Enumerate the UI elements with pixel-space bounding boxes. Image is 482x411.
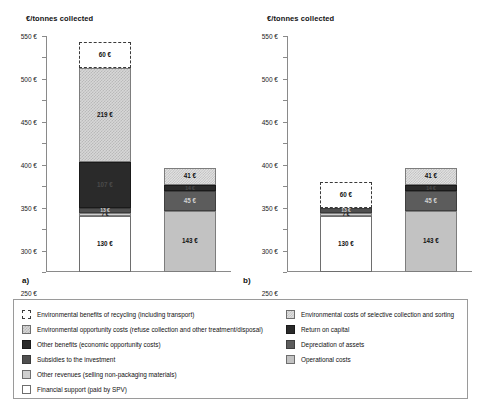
y-tick: 450 € (42, 79, 46, 80)
bar-costs-bar: 143 €45 €14 €41 € (164, 168, 216, 272)
bar-segment-env_costs_selective: 41 € (405, 168, 457, 186)
legend-item: Depreciation of assets (286, 337, 466, 351)
segment-value-label: 41 € (425, 173, 437, 179)
y-tick: 250 € (283, 165, 287, 166)
legend-label: Subsidies to the investment (37, 356, 115, 363)
y-tick: 100 € (283, 229, 287, 230)
legend-swatch-midgray (286, 340, 295, 349)
bar-benefits-bar: 130 €7 €13 €107 €219 €60 € (79, 63, 131, 272)
y-tick: 400 € (283, 100, 287, 101)
panel-label-a: a) (22, 276, 29, 285)
y-tick: 200 € (283, 186, 287, 187)
y-tick-label: 500 € (21, 75, 37, 82)
segment-value-label: 41 € (184, 173, 196, 179)
bar-segment-subsidies: 13 € (320, 208, 372, 214)
bar-costs-bar: 143 €45 €14 €41 € (405, 168, 457, 272)
legend-item: Return on capital (286, 322, 466, 336)
segment-value-label: 13 € (341, 208, 351, 213)
y-tick: 350 € (42, 122, 46, 123)
y-tick-label: 500 € (262, 75, 278, 82)
legend-label: Environmental costs of selective collect… (301, 311, 454, 318)
segment-value-label: 60 € (99, 52, 111, 58)
y-tick: 150 € (283, 208, 287, 209)
y-tick: 50 € (42, 251, 46, 252)
legend-item: Subsidies to the investment (22, 352, 282, 366)
y-tick: 0 € (42, 272, 46, 273)
y-tick-label: 400 € (21, 161, 37, 168)
y-tick: 100 € (42, 229, 46, 230)
bar-segment-env_benefits_recycling: 60 € (320, 182, 372, 208)
bar-benefits-bar: 130 €7 €13 €60 € (320, 182, 372, 272)
legend-label: Environmental benefits of recycling (inc… (37, 311, 194, 318)
y-tick: 500 € (283, 57, 287, 58)
y-tick: 50 € (283, 251, 287, 252)
legend-item: Environmental benefits of recycling (inc… (22, 307, 282, 321)
bar-segment-return_on_capital: 14 € (405, 185, 457, 191)
plot-area-a: 0 €50 €100 €150 €200 €250 €300 €350 €400… (46, 36, 231, 272)
y-tick-label: 250 € (262, 290, 278, 297)
legend-label: Financial support (paid by SPV) (37, 386, 127, 393)
bar-segment-depreciation: 45 € (405, 191, 457, 210)
y-tick: 250 € (42, 165, 46, 166)
stacked-bar-chart-figure: €/tonnes collected 0 €50 €100 €150 €200 … (0, 0, 482, 411)
bar-segment-financial_support: 130 € (79, 216, 131, 272)
y-tick: 0 € (283, 272, 287, 273)
bar-segment-env_benefits_recycling: 60 € (79, 42, 131, 68)
y-tick: 300 € (283, 143, 287, 144)
legend-swatch-black (286, 325, 295, 334)
bar-segment-other_revenues: 7 € (320, 213, 372, 216)
segment-value-label: 45 € (184, 198, 196, 204)
bar-segment-env_costs_selective: 41 € (164, 168, 216, 186)
y-tick-label: 550 € (21, 33, 37, 40)
legend-item: Financial support (paid by SPV) (22, 382, 282, 396)
segment-value-label: 14 € (426, 186, 436, 191)
y-tick: 550 € (283, 36, 287, 37)
bar-segment-financial_support: 130 € (320, 216, 372, 272)
legend-label: Other revenues (selling non-packaging ma… (37, 371, 177, 378)
bar-segment-other_revenues: 7 € (79, 213, 131, 216)
legend-column-right: Environmental costs of selective collect… (286, 307, 466, 367)
y-axis-title: €/tonnes collected (26, 14, 93, 23)
panel-label-b: b) (243, 276, 251, 285)
panel-a: €/tonnes collected 0 €50 €100 €150 €200 … (0, 0, 241, 292)
y-tick: 450 € (283, 79, 287, 80)
legend-swatch-checker2 (286, 310, 295, 319)
plot-area-b: 0 €50 €100 €150 €200 €250 €300 €350 €400… (287, 36, 472, 272)
legend-column-left: Environmental benefits of recycling (inc… (22, 307, 282, 397)
y-axis-title: €/tonnes collected (267, 14, 334, 23)
legend-swatch-dashed (22, 310, 31, 319)
legend-label: Environmental opportunity costs (refuse … (37, 326, 263, 333)
y-tick: 400 € (42, 100, 46, 101)
segment-value-label: 13 € (100, 208, 110, 213)
segment-value-label: 219 € (97, 112, 113, 118)
segment-value-label: 143 € (423, 238, 439, 244)
legend-item: Environmental costs of selective collect… (286, 307, 466, 321)
bar-segment-operational_costs: 143 € (405, 211, 457, 272)
y-tick: 350 € (283, 122, 287, 123)
panel-b: €/tonnes collected 0 €50 €100 €150 €200 … (241, 0, 482, 292)
y-tick-label: 250 € (21, 290, 37, 297)
legend-item: Other benefits (economic opportunity cos… (22, 337, 282, 351)
legend-swatch-lightgray (22, 370, 31, 379)
segment-value-label: 60 € (340, 192, 352, 198)
legend-item: Operational costs (286, 352, 466, 366)
y-tick-label: 300 € (262, 247, 278, 254)
bar-segment-return_on_capital: 14 € (164, 185, 216, 191)
bar-segment-depreciation: 45 € (164, 191, 216, 210)
legend-swatch-checker (22, 325, 31, 334)
y-tick: 550 € (42, 36, 46, 37)
legend-label: Operational costs (301, 356, 351, 363)
y-tick: 150 € (42, 208, 46, 209)
y-tick: 200 € (42, 186, 46, 187)
bar-segment-subsidies: 13 € (79, 208, 131, 214)
legend-label: Other benefits (economic opportunity cos… (37, 341, 161, 348)
legend-label: Depreciation of assets (301, 341, 364, 348)
legend-swatch-darkgray (22, 355, 31, 364)
segment-value-label: 107 € (97, 182, 113, 188)
segment-value-label: 130 € (338, 241, 354, 247)
legend: Environmental benefits of recycling (inc… (13, 299, 468, 399)
segment-value-label: 14 € (185, 186, 195, 191)
bar-segment-operational_costs: 143 € (164, 211, 216, 272)
legend-item: Other revenues (selling non-packaging ma… (22, 367, 282, 381)
y-tick-label: 400 € (262, 161, 278, 168)
